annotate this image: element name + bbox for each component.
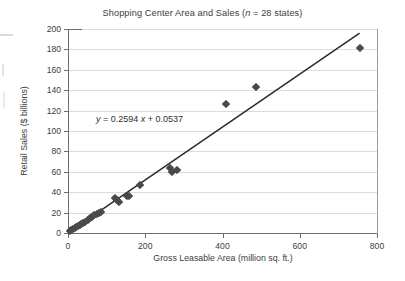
gridline-horizontal bbox=[68, 49, 377, 50]
x-axis-tick bbox=[145, 234, 146, 238]
y-axis-spine bbox=[68, 29, 69, 234]
gridline-horizontal bbox=[68, 131, 377, 132]
scan-edge-artifact-mark-secondary bbox=[3, 92, 5, 108]
chart-title: Shopping Center Area and Sales (n = 28 s… bbox=[0, 8, 405, 18]
x-axis-tick-label: 400 bbox=[215, 241, 229, 251]
y-axis-tick-label: 20 bbox=[51, 208, 61, 218]
scan-edge-artifact bbox=[0, 34, 13, 36]
scan-edge-artifact-mark bbox=[2, 64, 4, 76]
gridline-horizontal bbox=[68, 151, 377, 152]
y-axis-tick-label: 140 bbox=[47, 85, 61, 95]
chart-figure: Shopping Center Area and Sales (n = 28 s… bbox=[0, 0, 405, 281]
gridline-horizontal bbox=[68, 90, 377, 91]
y-axis-tick-label: 60 bbox=[51, 167, 61, 177]
x-axis-label: Gross Leasable Area (million sq. ft.) bbox=[68, 253, 378, 263]
y-axis-tick-label: 40 bbox=[51, 187, 61, 197]
gridline-horizontal bbox=[68, 70, 377, 71]
y-axis-tick-label: 0 bbox=[56, 228, 61, 238]
y-axis-tick-label: 180 bbox=[47, 44, 61, 54]
gridline-horizontal bbox=[68, 213, 377, 214]
equation-tail: + 0.0537 bbox=[145, 114, 183, 124]
x-axis-tick-label: 0 bbox=[66, 241, 71, 251]
y-axis-tick-label: 80 bbox=[51, 146, 61, 156]
equation-body: = 0.2594 bbox=[101, 114, 141, 124]
regression-equation: y = 0.2594 x + 0.0537 bbox=[96, 114, 183, 124]
gridline-horizontal bbox=[68, 111, 377, 112]
chart-title-text-lead: Shopping Center Area and Sales ( bbox=[103, 8, 246, 18]
x-axis-tick-label: 800 bbox=[370, 241, 384, 251]
y-axis-label: Retail Sales ($ billions) bbox=[19, 86, 29, 175]
x-axis-tick-label: 600 bbox=[293, 241, 307, 251]
gridline-horizontal bbox=[68, 29, 377, 30]
plot-right-border bbox=[377, 29, 378, 234]
x-axis-tick bbox=[377, 234, 378, 238]
y-axis-tick-label: 120 bbox=[47, 106, 61, 116]
x-axis-tick bbox=[300, 234, 301, 238]
x-axis-tick bbox=[223, 234, 224, 238]
chart-title-text-tail: = 28 states) bbox=[250, 8, 302, 18]
x-axis-tick-label: 200 bbox=[138, 241, 152, 251]
y-axis-tick-label: 200 bbox=[47, 24, 61, 34]
y-axis-tick-label: 100 bbox=[47, 126, 61, 136]
y-axis-top-cap bbox=[68, 29, 82, 30]
gridline-horizontal bbox=[68, 172, 377, 173]
y-axis-tick-label: 160 bbox=[47, 65, 61, 75]
